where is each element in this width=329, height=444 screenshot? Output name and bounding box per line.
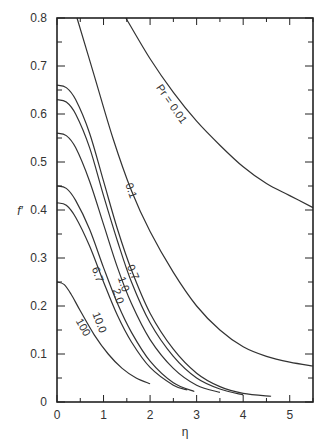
curve-label: 100: [74, 316, 94, 338]
x-tick-label: 1: [100, 408, 107, 422]
y-tick-label: 0.7: [30, 59, 47, 73]
y-tick-label: 0.6: [30, 107, 47, 121]
x-axis-label: η: [182, 425, 189, 439]
curve-pr-100: [57, 282, 150, 384]
y-tick-label: 0.1: [30, 347, 47, 361]
plot-area: Pr = 0.010.10.71.02.06.710.0100 01234500…: [0, 0, 329, 444]
curves: [57, 18, 313, 396]
y-tick-label: 0.8: [30, 11, 47, 25]
y-tick-label: 0.3: [30, 251, 47, 265]
ticks: [57, 18, 313, 402]
curve-pr-0.01: [126, 18, 313, 208]
tick-labels: 01234500.10.20.30.40.50.60.70.8: [30, 11, 293, 422]
y-tick-label: 0.5: [30, 155, 47, 169]
x-tick-label: 3: [193, 408, 200, 422]
x-tick-label: 2: [147, 408, 154, 422]
y-axis-label: f′: [17, 204, 23, 218]
curve-label: Pr = 0.01: [154, 82, 189, 126]
curve-pr-1.0: [57, 100, 243, 395]
curve-pr-0.7: [57, 85, 271, 396]
chart: Pr = 0.010.10.71.02.06.710.0100 01234500…: [0, 0, 329, 444]
y-tick-label: 0: [40, 395, 47, 409]
curve-pr-0.1: [77, 18, 313, 366]
y-tick-label: 0.4: [30, 203, 47, 217]
plot-frame: [57, 18, 313, 402]
x-tick-label: 0: [54, 408, 61, 422]
x-tick-label: 5: [286, 408, 293, 422]
axes-frame: [57, 18, 313, 402]
curve-label: 0.1: [123, 181, 139, 199]
x-tick-label: 4: [240, 408, 247, 422]
curve-labels: Pr = 0.010.10.71.02.06.710.0100: [74, 82, 190, 338]
y-tick-label: 0.2: [30, 299, 47, 313]
